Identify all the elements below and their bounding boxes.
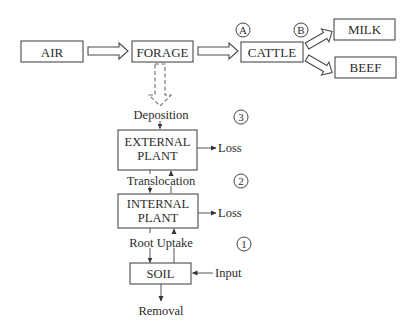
marker-1: 1 <box>237 237 251 251</box>
marker-a: A <box>236 23 250 37</box>
removal-label: Removal <box>138 304 184 318</box>
marker-a-label: A <box>239 24 247 36</box>
deposition-label: Deposition <box>134 108 190 122</box>
forage-label: FORAGE <box>136 45 188 60</box>
internal-plant-label-line2: PLANT <box>138 211 179 225</box>
cattle-node: CATTLE <box>241 42 303 62</box>
soil-label: SOIL <box>147 267 175 281</box>
input-label: Input <box>215 266 242 280</box>
marker-1-label: 1 <box>241 238 247 250</box>
milk-node: MILK <box>334 19 395 40</box>
forage-to-deposition-dashed-arrow <box>149 64 171 106</box>
air-to-forage-arrow <box>88 43 128 59</box>
marker-b-label: B <box>297 24 304 36</box>
root-uptake-label: Root Uptake <box>129 236 193 250</box>
internal-plant-label-line1: INTERNAL <box>127 197 190 211</box>
marker-3-label: 3 <box>238 111 244 123</box>
external-plant-label-line2: PLANT <box>137 149 178 163</box>
cattle-label: CATTLE <box>248 45 296 60</box>
marker-2-label: 2 <box>238 175 244 187</box>
air-label: AIR <box>41 45 64 60</box>
soil-node: SOIL <box>130 263 191 284</box>
external-plant-node: EXTERNAL PLANT <box>118 130 197 170</box>
external-plant-label-line1: EXTERNAL <box>125 135 191 149</box>
cattle-to-beef-arrow <box>303 52 336 79</box>
translocation-label: Translocation <box>127 174 196 188</box>
forage-to-cattle-arrow <box>198 43 238 59</box>
air-node: AIR <box>21 41 83 62</box>
marker-b: B <box>294 23 308 37</box>
marker-2: 2 <box>234 174 248 188</box>
forage-node: FORAGE <box>132 41 193 62</box>
beef-label: BEEF <box>350 60 382 75</box>
external-loss-label: Loss <box>218 141 242 155</box>
internal-plant-node: INTERNAL PLANT <box>118 194 198 228</box>
marker-3: 3 <box>234 110 248 124</box>
milk-label: MILK <box>348 22 382 37</box>
food-chain-diagram: AIR FORAGE CATTLE A B MILK <box>0 0 414 327</box>
diagram-canvas: AIR FORAGE CATTLE A B MILK <box>0 0 414 327</box>
internal-loss-label: Loss <box>218 206 242 220</box>
beef-node: BEEF <box>335 57 396 78</box>
